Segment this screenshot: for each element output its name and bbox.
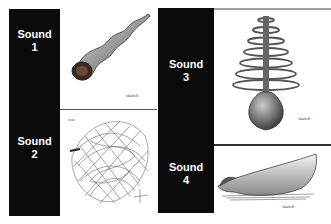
sound-1-number: 1	[9, 41, 60, 54]
sound-4-word: Sound	[158, 161, 214, 174]
svg-text:note: note	[68, 117, 75, 122]
scribble-ball-icon: note	[60, 111, 157, 215]
sound-2-label: Sound 2	[9, 135, 60, 161]
sound-2-number: 2	[9, 148, 60, 161]
sound-3-drawing: sketch	[214, 8, 331, 143]
sound-4-label: Sound 4	[158, 161, 214, 187]
curved-bowl-icon: sketch	[214, 146, 331, 213]
sound-2-word: Sound	[9, 135, 60, 148]
sound-3-label: Sound 3	[158, 58, 214, 84]
sound-4-number: 4	[158, 174, 214, 187]
sound-3-word: Sound	[158, 58, 214, 71]
sound-1-word: Sound	[9, 28, 60, 41]
svg-text:sketch: sketch	[126, 93, 139, 98]
svg-text:sketch: sketch	[282, 204, 295, 209]
stacked-rings-icon: sketch	[214, 8, 331, 143]
sound-4-drawing: sketch	[214, 146, 331, 213]
sound-1-label: Sound 1	[9, 28, 60, 54]
sound-3-number: 3	[158, 71, 214, 84]
sound-2-drawing: note	[60, 111, 157, 215]
sound-1-drawing: sketch	[60, 9, 157, 109]
left-divider	[60, 109, 157, 110]
twisted-horn-icon: sketch	[60, 9, 157, 109]
svg-text:sketch: sketch	[298, 116, 311, 121]
